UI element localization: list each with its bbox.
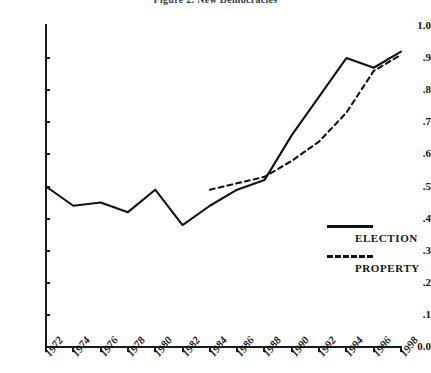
line-chart: Figure 2. New Democracies 1.0.9.8.7.6.5.… — [0, 0, 431, 373]
y-tick-mark — [45, 153, 50, 155]
legend-label: ELECTION — [355, 232, 418, 244]
y-tick-label: .5 — [397, 181, 431, 192]
y-tick-mark — [45, 57, 50, 59]
chart-legend: ELECTIONPROPERTY — [327, 219, 431, 279]
y-tick-label: .1 — [397, 309, 431, 320]
y-tick-mark — [45, 186, 50, 188]
y-tick-label: .7 — [397, 116, 431, 127]
y-tick-mark — [45, 282, 50, 284]
series-line-election — [46, 52, 401, 225]
series-plot — [0, 0, 431, 373]
series-line-property — [210, 55, 401, 190]
y-tick-mark — [45, 250, 50, 252]
y-tick-mark — [45, 89, 50, 91]
y-tick-mark — [45, 218, 50, 220]
legend-item: ELECTION — [327, 219, 431, 249]
y-tick-label: .9 — [397, 52, 431, 63]
y-tick-label: .6 — [397, 148, 431, 159]
legend-swatch-solid — [327, 225, 373, 228]
legend-label: PROPERTY — [355, 262, 420, 274]
chart-title: Figure 2. New Democracies — [0, 0, 431, 5]
y-tick-mark — [45, 121, 50, 123]
legend-item: PROPERTY — [327, 249, 431, 279]
y-tick-label: .8 — [397, 84, 431, 95]
legend-swatch-dashed — [327, 255, 373, 258]
y-tick-mark — [45, 314, 50, 316]
y-tick-label: 1.0 — [397, 20, 431, 31]
